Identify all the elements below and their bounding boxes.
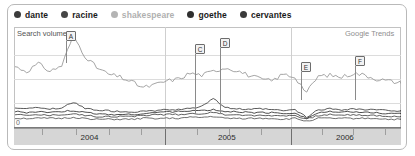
legend-dot-icon bbox=[111, 11, 118, 18]
year-divider-tick bbox=[291, 129, 292, 145]
google-trends-watermark: Google Trends bbox=[345, 29, 394, 38]
series-lines bbox=[15, 34, 401, 121]
series-line-cervantes bbox=[15, 116, 401, 121]
annotation-marker-label: E bbox=[301, 62, 311, 72]
quarter-tick bbox=[261, 129, 262, 135]
legend-dot-icon bbox=[61, 11, 68, 18]
zero-tick-label: 0 bbox=[16, 119, 20, 126]
quarter-tick bbox=[109, 129, 110, 135]
legend-item-cervantes[interactable]: cervantes bbox=[240, 10, 292, 20]
quarter-tick bbox=[42, 129, 43, 135]
year-label-2006: 2006 bbox=[336, 133, 354, 142]
trends-line-chart bbox=[14, 27, 401, 128]
year-label-2004: 2004 bbox=[81, 133, 99, 142]
legend-label: shakespeare bbox=[122, 10, 175, 20]
annotation-marker-stem bbox=[195, 54, 196, 114]
annotation-marker-label: D bbox=[220, 38, 230, 48]
legend-dot-icon bbox=[14, 11, 21, 18]
annotation-marker-label: F bbox=[355, 56, 365, 66]
year-divider-tick bbox=[165, 129, 166, 145]
annotation-marker-stem bbox=[66, 41, 67, 63]
annotation-marker-stem bbox=[301, 72, 302, 100]
series-line-shakespeare bbox=[15, 34, 401, 92]
legend-item-dante[interactable]: dante bbox=[14, 10, 48, 20]
y-axis-label: Search volume bbox=[17, 29, 67, 38]
quarter-tick bbox=[385, 129, 386, 135]
annotation-marker-stem bbox=[355, 66, 356, 100]
quarter-tick bbox=[141, 129, 142, 135]
annotation-marker-label: C bbox=[195, 44, 205, 54]
legend-label: dante bbox=[25, 10, 48, 20]
x-axis-strip: 200420052006 bbox=[14, 128, 401, 145]
year-label-2005: 2005 bbox=[218, 133, 236, 142]
gridlines bbox=[14, 56, 401, 104]
plot-area bbox=[14, 27, 401, 128]
legend-label: racine bbox=[72, 10, 98, 20]
series-line-dante bbox=[15, 99, 401, 118]
legend-item-shakespeare[interactable]: shakespeare bbox=[111, 10, 175, 20]
legend-item-goethe[interactable]: goethe bbox=[187, 10, 226, 20]
google-trends-chart-widget: danteracineshakespearegoethecervantes Se… bbox=[0, 0, 415, 156]
legend-label: cervantes bbox=[251, 10, 292, 20]
quarter-tick bbox=[322, 129, 323, 135]
legend-item-racine[interactable]: racine bbox=[61, 10, 98, 20]
annotation-marker-stem bbox=[220, 48, 221, 114]
legend-dot-icon bbox=[240, 11, 247, 18]
quarter-tick bbox=[76, 129, 77, 135]
chart-legend: danteracineshakespearegoethecervantes bbox=[14, 8, 305, 21]
legend-dot-icon bbox=[187, 11, 194, 18]
legend-label: goethe bbox=[198, 10, 226, 20]
annotation-marker-label: A bbox=[66, 31, 76, 41]
quarter-tick bbox=[197, 129, 198, 135]
